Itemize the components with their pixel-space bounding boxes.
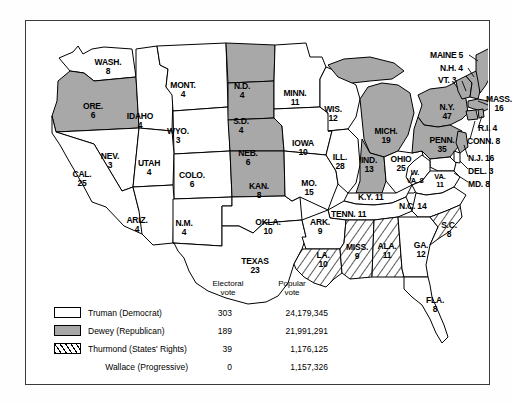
state-shape-nd <box>226 43 275 83</box>
state-shape-md <box>430 157 456 171</box>
state-shape-fla <box>404 277 448 343</box>
legend-header-electoral: Electoral vote <box>202 279 254 297</box>
state-shape-miss <box>340 220 374 279</box>
legend-popular-wallace: 1,157,326 <box>252 362 328 372</box>
legend-row-dewey: Dewey (Republican) <box>54 323 165 338</box>
legend-popular-dewey: 21,991,291 <box>252 326 328 336</box>
legend-label-dewey: Dewey (Republican) <box>88 326 165 336</box>
state-shape-wyo <box>173 107 230 154</box>
legend-popular-thurmond: 1,176,125 <box>252 344 328 354</box>
state-shape-utah <box>133 128 174 187</box>
legend-popular-truman: 24,179,345 <box>252 308 328 318</box>
legend-row-thurmond: Thurmond (States' Rights) <box>54 341 187 356</box>
state-shape-colo <box>174 151 232 199</box>
state-shape-minn <box>274 43 326 109</box>
state-shape-sd <box>228 81 274 120</box>
state-shape-nj <box>456 131 468 153</box>
legend-label-thurmond: Thurmond (States' Rights) <box>88 344 187 354</box>
legend-label-truman: Truman (Democrat) <box>88 308 162 318</box>
legend-row-truman: Truman (Democrat) <box>54 305 162 320</box>
legend-swatch-thurmond <box>54 343 81 354</box>
election-map-page: WASH.8 ORE.6 IDAHO4 MONT.4 WYO.3 NEV.3 U… <box>0 0 513 403</box>
state-shape-neb <box>228 118 284 151</box>
legend-header-popular: Popular vote <box>266 279 318 297</box>
state-shape-ariz <box>133 185 174 245</box>
map-frame: WASH.8 ORE.6 IDAHO4 MONT.4 WYO.3 NEV.3 U… <box>25 20 490 385</box>
state-shape-mich <box>360 83 414 157</box>
legend-electoral-thurmond: 39 <box>202 344 232 354</box>
state-shape-ri <box>478 109 484 118</box>
state-shape-conn <box>466 110 478 120</box>
state-shape-mass <box>468 99 488 111</box>
legend-label-wallace: Wallace (Progressive) <box>70 362 188 372</box>
state-shape-ga <box>398 217 438 277</box>
legend-electoral-wallace: 0 <box>202 362 232 372</box>
legend-swatch-dewey <box>54 325 81 336</box>
legend-electoral-dewey: 189 <box>202 326 232 336</box>
state-shape-kan <box>230 151 285 197</box>
legend-electoral-truman: 303 <box>202 308 232 318</box>
legend-swatch-truman <box>54 307 81 318</box>
